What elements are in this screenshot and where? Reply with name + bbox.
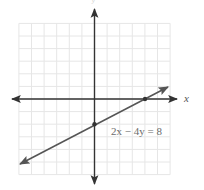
- y-axis-label: y: [91, 0, 95, 4]
- x-intercept-point: [143, 97, 147, 101]
- coordinate-graph: x y 2x − 4y = 8: [0, 0, 204, 190]
- x-axis-label: x: [183, 92, 189, 104]
- equation-label: 2x − 4y = 8: [111, 125, 162, 137]
- y-intercept-point: [92, 122, 96, 126]
